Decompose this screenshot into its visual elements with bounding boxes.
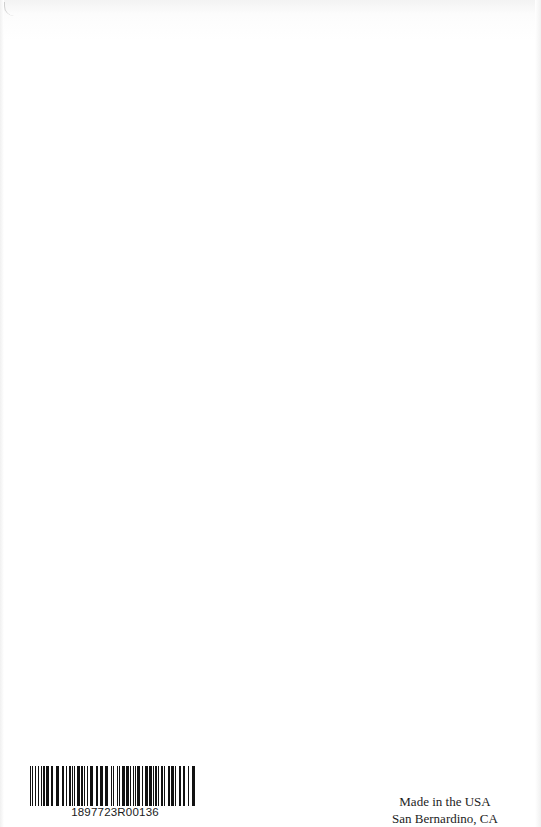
blank-page <box>0 0 541 827</box>
imprint-line-made-in: Made in the USA <box>360 793 530 810</box>
page-right-edge <box>535 0 541 827</box>
page-left-edge <box>0 0 4 827</box>
barcode-image <box>30 766 200 806</box>
imprint: Made in the USA San Bernardino, CA <box>360 793 530 827</box>
barcode-block: 1897723R00136 <box>30 766 200 824</box>
barcode-number: 1897723R00136 <box>30 806 200 818</box>
imprint-line-location: San Bernardino, CA <box>360 810 530 827</box>
